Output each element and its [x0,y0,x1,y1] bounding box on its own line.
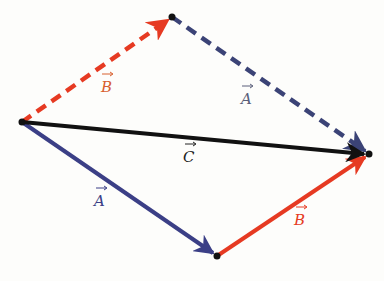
point-origin [19,119,26,126]
vector-b-dashed [22,20,168,122]
svg-text:B: B [293,211,305,229]
svg-text:A: A [92,192,105,210]
label-c: C [183,142,196,166]
vector-a-dashed [172,17,365,151]
svg-text:C: C [183,148,195,166]
vector-diagram: B A C A B [0,0,384,281]
label-b-dashed: B [100,72,113,96]
point-right [366,151,373,158]
vector-b-solid [217,157,365,256]
label-a-solid: A [92,186,107,210]
label-b-solid: B [293,205,307,229]
point-top [169,14,176,21]
label-a-dashed: A [239,84,253,108]
svg-text:B: B [100,78,112,96]
point-bottom [214,253,221,260]
svg-text:A: A [239,90,252,108]
vector-a-solid [22,122,213,253]
